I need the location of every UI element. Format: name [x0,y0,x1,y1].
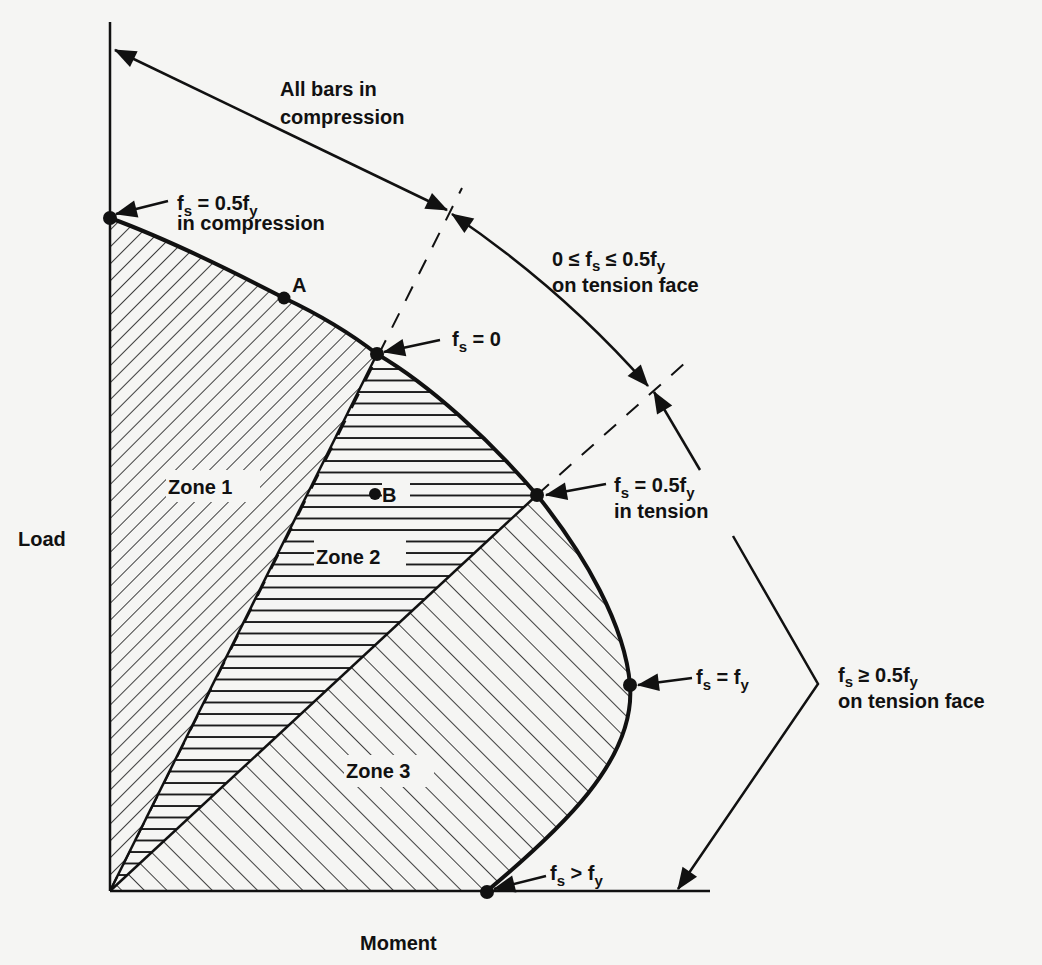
point-fs-zero [370,347,384,361]
range-arrow-all-compression [115,50,447,210]
range-bracket-high-tension-top [654,392,700,470]
range-label-all-compression: All bars in compression [280,78,404,128]
svg-text:fs ≥ 0.5fy: fs ≥ 0.5fy [838,664,919,690]
label-compression-point: fs = 0.5fy in compression [177,192,325,234]
label-half-tension: fs = 0.5fy in tension [614,474,708,522]
range-label-low-tension: 0 ≤ fs ≤ 0.5fy on tension face [552,248,699,296]
svg-text:fs = fy: fs = fy [696,666,749,693]
interaction-diagram: Load Moment A B Zone 1 Zone 2 Zone 3 All… [0,0,1042,965]
point-half-tension [530,488,544,502]
range-bracket-high-tension-vertex [678,536,818,889]
pointer-fs-zero [384,340,440,352]
pointer-compression [116,201,168,214]
label-yield: fs = fy [696,666,749,693]
svg-text:in compression: in compression [177,212,325,234]
point-compression [103,211,117,225]
label-fs-zero: fs = 0 [452,328,501,355]
label-beyond-yield: fs > fy [550,862,603,889]
svg-text:0 ≤ fs ≤ 0.5fy: 0 ≤ fs ≤ 0.5fy [552,248,666,274]
pointer-yield [638,678,692,685]
svg-text:fs > fy: fs > fy [550,862,603,889]
zone-2-label: Zone 2 [316,546,380,568]
point-b [369,488,381,500]
point-yield [623,678,637,692]
y-axis-label: Load [18,528,66,550]
range-arrow-low-tension [452,214,648,386]
range-label-high-tension: fs ≥ 0.5fy on tension face [838,664,985,712]
svg-text:on tension face: on tension face [552,274,699,296]
zone-1-label: Zone 1 [168,476,232,498]
point-a-label: A [292,274,306,296]
svg-text:fs = 0.5fy: fs = 0.5fy [614,474,695,501]
pointer-half-tension [546,484,606,495]
zone-3-label: Zone 3 [346,760,410,782]
svg-text:fs = 0: fs = 0 [452,328,501,355]
svg-text:All bars in: All bars in [280,78,377,100]
x-axis-label: Moment [360,932,437,954]
svg-text:in tension: in tension [614,500,708,522]
point-b-label: B [382,484,396,506]
point-beyond-yield [480,885,494,899]
point-a [278,292,291,305]
svg-text:on tension face: on tension face [838,690,985,712]
svg-text:compression: compression [280,106,404,128]
